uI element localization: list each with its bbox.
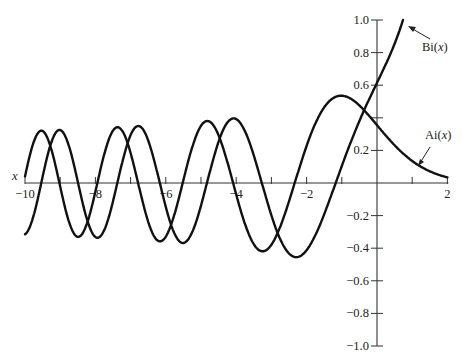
ai-arrowhead-icon: [418, 159, 424, 166]
airy-functions-chart: −10−8−6−4−22 1.00.80.60.2−0.2−0.4−0.6−0.…: [0, 0, 462, 364]
y-tick-label: −0.2: [346, 209, 369, 223]
y-tick-label: −0.8: [346, 306, 369, 320]
y-tick-label: 0.8: [353, 46, 369, 60]
y-tick-label: 0.2: [353, 143, 369, 157]
y-tick-label: −0.4: [346, 241, 369, 255]
x-tick-label: −2: [300, 187, 313, 201]
y-tick-label: 1.0: [353, 13, 369, 27]
bi-arrowhead-icon: [408, 26, 416, 32]
x-axis-label: x: [11, 169, 18, 183]
ai-label: Ai(x): [425, 128, 451, 142]
x-tick-label: −10: [15, 187, 35, 201]
y-tick-label: −1.0: [346, 339, 369, 353]
bi-label: Bi(x): [422, 40, 448, 54]
y-tick-label: 0.6: [353, 78, 369, 92]
x-tick-label: 2: [444, 187, 450, 201]
y-tick-label: −0.6: [346, 274, 369, 288]
